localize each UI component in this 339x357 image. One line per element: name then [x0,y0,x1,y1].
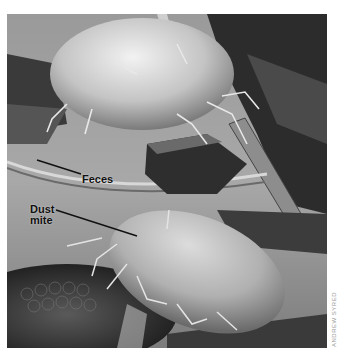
feces-label: Feces [82,174,113,185]
photo-credit: ANDREW SYRED [331,292,337,347]
dust-mite-label: Dust mite [30,204,54,226]
dust-mite-leader-line [56,210,137,236]
dust-mite-label-line2: mite [30,215,54,226]
feces-leader-line [37,160,81,174]
leader-lines [7,14,327,348]
micrograph-figure [7,14,327,348]
